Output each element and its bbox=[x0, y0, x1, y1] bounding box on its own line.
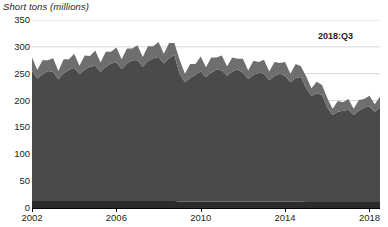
y-axis-tick-label: 350 bbox=[2, 15, 30, 25]
x-axis-tick-label: 2014 bbox=[265, 211, 305, 225]
x-axis-tick-label: 2002 bbox=[12, 211, 52, 225]
y-axis-tick-label: 250 bbox=[2, 69, 30, 79]
x-axis-tick-labels: 20022006201020142018 bbox=[0, 211, 388, 227]
y-axis-tick-label: 200 bbox=[2, 96, 30, 106]
x-axis-line bbox=[32, 208, 380, 209]
chart-container: Short tons (millions) 050100150200250300… bbox=[0, 0, 388, 227]
y-axis-tick-labels: 050100150200250300350 bbox=[0, 0, 30, 227]
area-layer bbox=[32, 55, 380, 202]
x-axis-tick-label: 2006 bbox=[96, 211, 136, 225]
x-axis-tick bbox=[116, 208, 117, 212]
x-axis-tick bbox=[369, 208, 370, 212]
y-axis-tick-label: 150 bbox=[2, 122, 30, 132]
x-axis-tick-label: 2010 bbox=[181, 211, 221, 225]
area-layers bbox=[32, 42, 380, 208]
x-axis-tick-label: 2018 bbox=[349, 211, 388, 225]
x-axis-tick bbox=[32, 208, 33, 212]
plot-area bbox=[32, 20, 380, 208]
y-axis-tick-label: 50 bbox=[2, 176, 30, 186]
y-axis-tick-label: 300 bbox=[2, 42, 30, 52]
stacked-area-series bbox=[32, 20, 380, 208]
x-axis-tick bbox=[285, 208, 286, 212]
y-axis-tick-label: 100 bbox=[2, 149, 30, 159]
x-axis-tick bbox=[201, 208, 202, 212]
period-annotation: 2018:Q3 bbox=[318, 31, 353, 41]
